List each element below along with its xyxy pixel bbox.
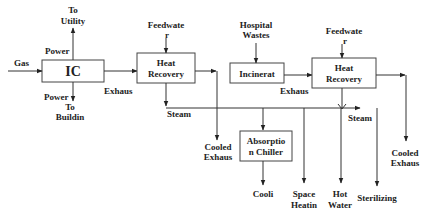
feedwater-2-label-1: Feedwate [326,26,362,36]
power-bottom-label: Power [44,92,69,102]
cogeneration-flow-diagram: IC Gas To Utility Power Power To Buildin… [0,0,428,218]
cooled-exhaust-2-label-1: Cooled [392,148,419,158]
hot-water-label-1: Hot [333,189,348,199]
exhaust-label-2: Exhaus [280,86,309,96]
incinerator-label: Incinerat [239,69,275,79]
heat-recovery-2-line-1: Heat [335,63,354,73]
hospital-wastes-label-2: Wastes [243,30,270,40]
heat-recovery-1-line-2: Recovery [148,69,184,79]
power-top-label: Power [45,46,70,56]
cooled-exhaust-2-label-2: Exhaus [391,158,420,168]
gas-label: Gas [14,58,30,68]
cooled-exhaust-1-label-1: Cooled [205,142,232,152]
feedwater-2-label-2: r [343,36,347,46]
hot-water-label-2: Water [328,200,352,210]
ic-block: IC [42,60,104,82]
absorption-chiller-block: Absorptio n Chiller [240,131,292,161]
hospital-wastes-label-1: Hospital [240,20,273,30]
to-building-label-2: Buildin [56,112,85,122]
chiller-line-1: Absorptio [247,136,286,146]
sterilizing-label: Sterilizing [357,193,397,203]
exhaust-label-1: Exhaus [104,86,133,96]
cooling-label: Cooli [253,189,274,199]
heat-recovery-2-line-2: Recovery [326,74,362,84]
space-heating-label-1: Space [293,189,316,199]
to-utility-label-1: To [68,5,78,15]
steam-label-1: Steam [167,109,191,119]
space-heating-label-2: Heatin [291,200,317,210]
ic-label: IC [65,64,81,79]
incinerator-block: Incinerat [230,63,284,83]
heat-recovery-block-2: Heat Recovery [312,58,376,88]
heat-recovery-block-1: Heat Recovery [137,53,195,83]
steam-label-2: Steam [348,113,372,123]
chiller-line-2: n Chiller [249,147,283,157]
feedwater-1-label-1: Feedwate [148,20,184,30]
heat-recovery-1-line-1: Heat [157,58,176,68]
to-building-label-1: To [65,102,75,112]
cooled-exhaust-1-label-2: Exhaus [204,152,233,162]
to-utility-label-2: Utility [61,16,86,26]
